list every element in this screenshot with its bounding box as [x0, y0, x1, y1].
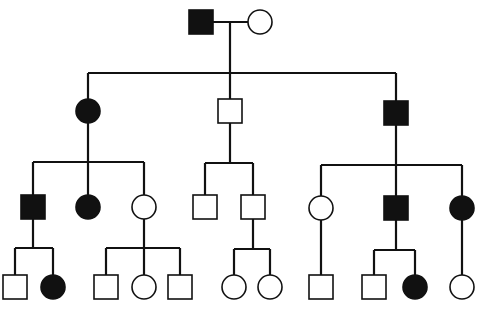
affected-female-circle-iii-8: [450, 196, 474, 220]
affected-female-circle-iv-2: [41, 275, 65, 299]
affected-male-square-i-1: [189, 10, 213, 34]
unaffected-male-square-ii-2: [218, 99, 242, 123]
unaffected-female-circle-iv-7: [258, 275, 282, 299]
unaffected-male-square-iii-5: [241, 195, 265, 219]
affected-female-circle-ii-1: [76, 99, 100, 123]
unaffected-male-square-iii-4: [193, 195, 217, 219]
affected-male-square-ii-3: [384, 101, 408, 125]
affected-female-circle-iv-10: [403, 275, 427, 299]
affected-male-square-iii-1: [21, 195, 45, 219]
unaffected-male-square-iv-8: [309, 275, 333, 299]
unaffected-female-circle-i-2: [248, 10, 272, 34]
affected-female-circle-iii-2: [76, 195, 100, 219]
connector-lines: [15, 22, 462, 275]
unaffected-female-circle-iv-6: [222, 275, 246, 299]
unaffected-male-square-iv-1: [3, 275, 27, 299]
unaffected-male-square-iv-5: [168, 275, 192, 299]
pedigree-chart: [0, 0, 490, 331]
affected-male-square-iii-7: [384, 196, 408, 220]
unaffected-female-circle-iv-11: [450, 275, 474, 299]
unaffected-female-circle-iii-3: [132, 195, 156, 219]
unaffected-male-square-iv-9: [362, 275, 386, 299]
unaffected-female-circle-iii-6: [309, 196, 333, 220]
unaffected-female-circle-iv-4: [132, 275, 156, 299]
unaffected-male-square-iv-3: [94, 275, 118, 299]
individual-symbols: [3, 10, 474, 299]
